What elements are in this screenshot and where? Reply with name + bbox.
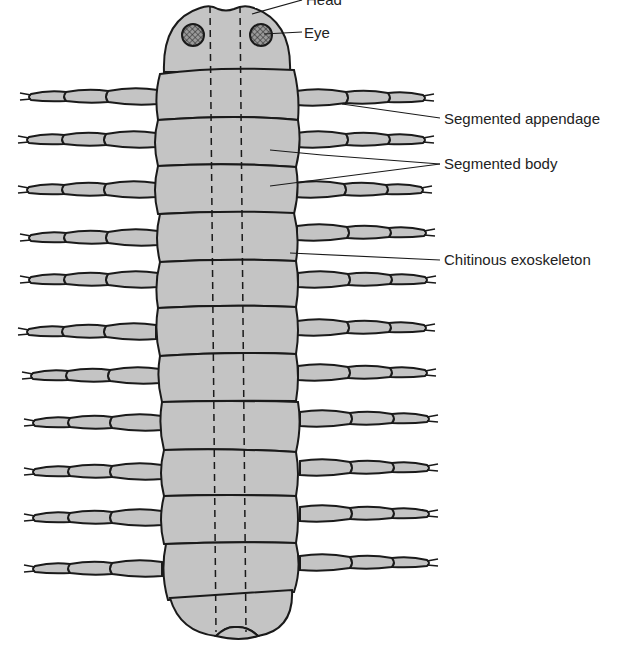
leg-left-6 [18, 323, 156, 339]
body-segment-4 [157, 212, 298, 262]
leg-left-11 [24, 560, 162, 576]
tail [170, 590, 292, 639]
leg-right-4 [297, 224, 435, 240]
leg-right-8 [300, 410, 438, 426]
arthropod-diagram [0, 0, 632, 652]
body-segments [155, 69, 300, 600]
body-segment-7 [158, 353, 298, 402]
body-segment-1 [156, 69, 298, 120]
body-segment-5 [156, 260, 298, 308]
leader-segmented-appendage [342, 104, 440, 118]
leg-right-5 [298, 271, 436, 287]
label-head: Head [306, 0, 342, 7]
body-segment-3 [155, 164, 298, 214]
eye-right [250, 24, 272, 46]
left-legs [18, 88, 162, 576]
leg-left-7 [22, 367, 160, 383]
label-segmented-appendage: Segmented appendage [444, 111, 600, 126]
label-eye: Eye [304, 25, 330, 40]
leg-left-9 [24, 463, 162, 479]
leg-right-1 [296, 89, 434, 105]
leader-chitinous-exoskeleton [290, 253, 440, 260]
leg-right-10 [300, 505, 438, 521]
leg-left-3 [18, 181, 156, 197]
head [164, 6, 290, 72]
body-segment-9 [161, 449, 298, 496]
leg-right-6 [297, 319, 435, 335]
eye-left [182, 24, 204, 46]
leg-left-5 [20, 271, 158, 287]
leg-right-11 [300, 554, 438, 570]
leg-left-2 [18, 131, 156, 147]
leg-right-7 [298, 364, 436, 380]
leg-left-1 [20, 88, 158, 104]
leg-left-4 [20, 229, 158, 245]
leg-left-10 [24, 509, 162, 525]
leg-right-3 [294, 181, 432, 197]
leg-right-2 [296, 131, 434, 147]
body-segment-2 [155, 117, 300, 167]
body-segment-10 [161, 495, 298, 544]
leg-left-8 [24, 414, 162, 430]
body-segment-8 [160, 401, 299, 452]
right-legs [294, 89, 438, 570]
label-segmented-body: Segmented body [444, 156, 557, 171]
body-segment-6 [156, 306, 298, 356]
leg-right-9 [300, 459, 438, 475]
leader-head [252, 0, 302, 14]
label-chitinous-exoskeleton: Chitinous exoskeleton [444, 252, 591, 267]
